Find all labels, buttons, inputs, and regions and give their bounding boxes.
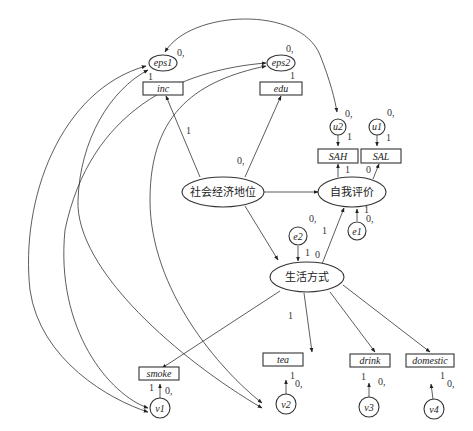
svg-text:eps2: eps2 [272, 57, 290, 68]
svg-text:自我评价: 自我评价 [330, 186, 374, 199]
err-eps2: eps2 [267, 55, 295, 71]
svg-text:1: 1 [288, 310, 293, 321]
svg-text:smoke: smoke [147, 368, 173, 379]
svg-text:1: 1 [386, 132, 391, 143]
svg-text:e2: e2 [293, 231, 302, 242]
svg-text:eps1: eps1 [154, 57, 172, 68]
svg-text:0,: 0, [366, 213, 374, 224]
svg-text:v2: v2 [281, 399, 290, 410]
box-domestic: domestic [406, 354, 454, 367]
svg-text:0,: 0, [295, 378, 303, 389]
svg-text:1: 1 [345, 164, 350, 175]
svg-text:生活方式: 生活方式 [285, 270, 329, 284]
svg-text:0,: 0, [378, 376, 386, 387]
err-v4: v4 [424, 399, 444, 419]
svg-text:社会经济地位: 社会经济地位 [190, 185, 256, 199]
latent-lifestyle: 生活方式 [270, 262, 344, 292]
svg-text:0,: 0, [177, 47, 185, 58]
svg-text:0: 0 [366, 164, 371, 175]
svg-text:1: 1 [440, 370, 445, 381]
err-e2: e2 [289, 227, 307, 245]
box-inc: inc [143, 82, 183, 95]
svg-text:0,: 0, [237, 155, 245, 166]
svg-text:0,: 0, [345, 108, 353, 119]
box-smoke: smoke [139, 367, 179, 380]
svg-text:1: 1 [149, 382, 154, 393]
svg-text:1: 1 [361, 371, 366, 382]
svg-text:u2: u2 [333, 121, 343, 132]
svg-text:1: 1 [148, 71, 153, 82]
svg-text:tea: tea [277, 354, 289, 365]
svg-text:0,: 0, [387, 107, 395, 118]
svg-text:SAL: SAL [373, 151, 390, 162]
err-v2: v2 [276, 394, 296, 414]
latent-ses: 社会经济地位 [182, 177, 264, 207]
latent-selfeval: 自我评价 [318, 177, 386, 207]
parameter-labels: 0, 1 0, 1 0, 1 0, 1 1 0 1 0, 0, 1 1 0 1 … [148, 43, 455, 396]
svg-text:1: 1 [186, 125, 191, 136]
cov-eps1-v1 [28, 66, 148, 412]
svg-text:1: 1 [347, 131, 352, 142]
svg-text:0: 0 [315, 249, 320, 260]
svg-text:0,: 0, [309, 213, 317, 224]
svg-text:1: 1 [305, 247, 310, 258]
svg-text:1: 1 [290, 70, 295, 81]
cov-eps2-v2 [150, 66, 266, 403]
svg-text:SAH: SAH [329, 151, 348, 162]
svg-text:domestic: domestic [412, 355, 448, 366]
box-drink: drink [350, 354, 390, 367]
svg-text:0,: 0, [286, 43, 294, 54]
box-tea: tea [263, 353, 303, 366]
err-u1: u1 [369, 119, 385, 135]
err-e1: e1 [348, 222, 366, 240]
box-SAL: SAL [361, 149, 401, 163]
svg-text:edu: edu [274, 83, 288, 94]
err-eps1: eps1 [149, 55, 177, 71]
svg-text:v3: v3 [364, 402, 373, 413]
svg-text:1: 1 [322, 225, 327, 236]
svg-text:u1: u1 [372, 121, 382, 132]
svg-text:e1: e1 [352, 226, 361, 237]
err-v3: v3 [359, 397, 379, 417]
svg-text:v4: v4 [429, 404, 438, 415]
svg-text:inc: inc [157, 83, 170, 94]
err-u2: u2 [330, 119, 346, 135]
cov-eps2-v1 [64, 63, 266, 408]
sem-diagram: inc edu SAH SAL smoke tea drink domestic… [0, 0, 473, 431]
svg-text:v1: v1 [155, 403, 164, 414]
svg-text:0,: 0, [165, 385, 173, 396]
box-SAH: SAH [318, 149, 358, 163]
box-edu: edu [260, 82, 302, 95]
err-v1: v1 [150, 398, 170, 418]
svg-text:0,: 0, [447, 378, 455, 389]
svg-text:drink: drink [359, 355, 381, 366]
